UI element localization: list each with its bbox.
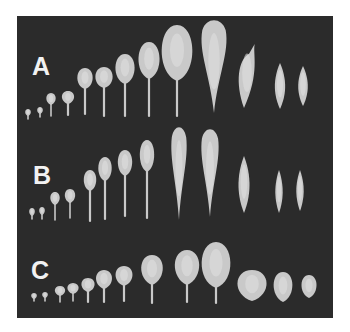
leaf-highlight [277, 176, 281, 202]
leaf-highlight [144, 145, 151, 164]
leaf [39, 207, 45, 219]
leaf-highlight [44, 293, 47, 297]
leaf [140, 140, 154, 218]
leaf [202, 20, 227, 113]
leaf-highlight [175, 140, 182, 196]
leaf-highlight [120, 269, 128, 281]
leaf [138, 42, 159, 116]
leaf-highlight [68, 191, 73, 199]
leaf-highlight [65, 93, 71, 101]
leaf-highlight [121, 59, 130, 77]
leaf-highlight [277, 70, 283, 98]
leaf [46, 93, 55, 116]
leaf-highlight [41, 208, 44, 213]
leaf [31, 293, 37, 301]
leaf-highlight [81, 71, 88, 84]
leaf [42, 292, 48, 301]
leaf [202, 242, 231, 303]
leaf [296, 170, 303, 211]
leaf [62, 91, 74, 115]
leaf-highlight [305, 278, 312, 292]
leaf [238, 156, 249, 213]
leaf [50, 192, 59, 220]
leaf [81, 278, 94, 302]
leaf-highlight [181, 255, 192, 276]
leaf-highlight [298, 176, 302, 201]
leaf [275, 63, 285, 109]
leaf [301, 275, 316, 298]
leaf [141, 255, 163, 303]
leaf-highlight [100, 70, 108, 83]
leaf [55, 286, 65, 302]
leaf-highlight [241, 165, 248, 199]
leaf-row-b [29, 127, 303, 221]
leaf [96, 270, 112, 302]
leaf [201, 129, 218, 217]
leaf-highlight [53, 194, 57, 202]
leaf-highlight [209, 249, 222, 277]
leaf-highlight [122, 154, 129, 170]
leaf [84, 170, 96, 221]
leaf [67, 283, 78, 301]
leaf-highlight [58, 288, 63, 294]
leaf-highlight [85, 280, 91, 288]
row-label-b: B [33, 163, 51, 188]
leaf-highlight [87, 173, 93, 186]
leaf [77, 68, 92, 114]
leaf-highlight [144, 48, 154, 70]
leaf [118, 150, 132, 216]
leaf [98, 157, 111, 219]
leaf-highlight [242, 54, 252, 92]
leaf [115, 54, 134, 116]
leaf-highlight [279, 277, 288, 295]
leaf-highlight [245, 275, 259, 294]
leaf [25, 109, 31, 119]
leaf-highlight [208, 33, 219, 89]
leaf [162, 25, 193, 116]
leaf [29, 208, 35, 219]
leaf-highlight [70, 285, 75, 292]
leaf-highlight [170, 33, 184, 67]
leaf-series-figure: A B C [17, 16, 333, 318]
leaf-row-c [31, 242, 316, 303]
leaf [298, 66, 308, 106]
leaf-highlight [206, 141, 214, 194]
leaf [37, 107, 43, 117]
leaf [175, 250, 199, 302]
leaf-highlight [39, 108, 42, 112]
leaf-series-photo [17, 16, 333, 318]
leaf [65, 189, 75, 218]
leaf-highlight [100, 273, 107, 284]
leaf-highlight [300, 72, 306, 96]
row-label-c: C [31, 258, 49, 283]
leaf [275, 170, 282, 213]
row-label-a: A [32, 54, 50, 79]
leaf [116, 266, 133, 301]
leaf-highlight [33, 294, 36, 298]
leaf [239, 44, 255, 108]
leaf-row-a [25, 20, 308, 119]
leaf [237, 270, 266, 301]
leaf-highlight [147, 260, 157, 278]
leaf-highlight [49, 95, 53, 102]
leaf [95, 67, 112, 116]
leaf-highlight [102, 161, 108, 175]
leaf [171, 127, 186, 220]
leaf-highlight [27, 110, 30, 114]
leaf-highlight [31, 209, 34, 214]
leaf [274, 272, 293, 302]
